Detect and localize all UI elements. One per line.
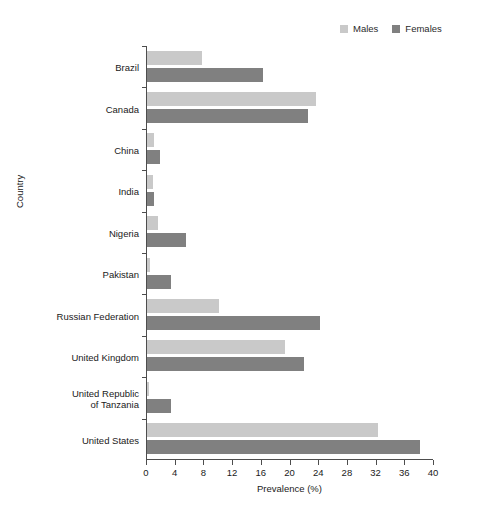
bar-group: China <box>146 129 433 170</box>
y-axis-tick <box>142 46 147 47</box>
y-axis-tick-label: United States <box>19 435 139 446</box>
y-axis-tick-label: Brazil <box>19 62 139 73</box>
y-axis-tick <box>142 253 147 254</box>
bar-group: United Republic of Tanzania <box>146 377 433 418</box>
y-axis-tick-label: Nigeria <box>19 228 139 239</box>
y-axis-tick-label: India <box>19 186 139 197</box>
x-axis-tick <box>347 460 348 465</box>
bar-group: India <box>146 170 433 211</box>
x-axis-tick <box>376 460 377 465</box>
bar-females <box>147 109 308 123</box>
y-axis-tick-label: United Kingdom <box>19 352 139 363</box>
plot-area: BrazilCanadaChinaIndiaNigeriaPakistanRus… <box>146 46 433 460</box>
bar-group: United States <box>146 419 433 460</box>
x-axis-tick-label: 12 <box>217 467 247 478</box>
bar-males <box>147 216 158 230</box>
bar-males <box>147 92 316 106</box>
x-axis-title: Prevalence (%) <box>146 483 433 494</box>
x-axis-tick <box>232 460 233 465</box>
bar-males <box>147 51 202 65</box>
bar-group: Nigeria <box>146 212 433 253</box>
x-axis-tick-label: 36 <box>389 467 419 478</box>
bar-males <box>147 382 149 396</box>
y-axis-tick <box>142 129 147 130</box>
bar-males <box>147 258 150 272</box>
legend-label-males: Males <box>353 24 378 34</box>
y-axis-tick-label: United Republic of Tanzania <box>19 388 139 410</box>
x-axis-tick-label: 8 <box>188 467 218 478</box>
y-axis-tick <box>142 377 147 378</box>
x-axis-tick-label: 28 <box>332 467 362 478</box>
x-axis-tick <box>404 460 405 465</box>
x-axis-tick-label: 20 <box>275 467 305 478</box>
bar-females <box>147 399 171 413</box>
x-axis-tick <box>203 460 204 465</box>
x-axis-tick <box>290 460 291 465</box>
chart-legend: Males Females <box>340 24 442 34</box>
y-axis-tick <box>142 294 147 295</box>
x-axis-tick <box>433 460 434 465</box>
y-axis-tick-label: China <box>19 145 139 156</box>
bar-males <box>147 175 153 189</box>
bar-females <box>147 275 171 289</box>
y-axis-tick <box>142 87 147 88</box>
y-axis-tick <box>142 336 147 337</box>
x-axis-tick-label: 40 <box>418 467 448 478</box>
y-axis-tick-label: Pakistan <box>19 269 139 280</box>
bar-group: United Kingdom <box>146 336 433 377</box>
y-axis-title: Country <box>14 175 25 208</box>
x-axis-tick <box>146 460 147 465</box>
bar-group: Canada <box>146 87 433 128</box>
x-axis-tick-label: 16 <box>246 467 276 478</box>
bar-group: Brazil <box>146 46 433 87</box>
bar-females <box>147 316 320 330</box>
bar-females <box>147 192 154 206</box>
bar-chart-figure: Males Females BrazilCanadaChinaIndiaNige… <box>0 0 489 515</box>
bar-males <box>147 299 219 313</box>
bar-females <box>147 357 304 371</box>
y-axis-tick <box>142 419 147 420</box>
bar-females <box>147 233 186 247</box>
bar-females <box>147 150 160 164</box>
bar-males <box>147 340 285 354</box>
bar-males <box>147 133 154 147</box>
bar-males <box>147 423 378 437</box>
x-axis-tick-label: 24 <box>303 467 333 478</box>
legend-label-females: Females <box>405 24 441 34</box>
legend-entry-females: Females <box>392 24 441 34</box>
y-axis-tick-label: Canada <box>19 104 139 115</box>
bar-females <box>147 440 420 454</box>
x-axis-tick-label: 32 <box>361 467 391 478</box>
y-axis-tick-label: Russian Federation <box>19 311 139 322</box>
bar-females <box>147 68 263 82</box>
y-axis-tick <box>142 170 147 171</box>
legend-swatch-females <box>392 25 400 33</box>
x-axis-tick-label: 0 <box>131 467 161 478</box>
legend-entry-males: Males <box>340 24 378 34</box>
bar-group: Pakistan <box>146 253 433 294</box>
x-axis-tick <box>261 460 262 465</box>
legend-swatch-males <box>340 25 348 33</box>
x-axis-tick <box>175 460 176 465</box>
x-axis-tick <box>318 460 319 465</box>
bar-group: Russian Federation <box>146 294 433 335</box>
x-axis-tick-label: 4 <box>160 467 190 478</box>
y-axis-tick <box>142 212 147 213</box>
